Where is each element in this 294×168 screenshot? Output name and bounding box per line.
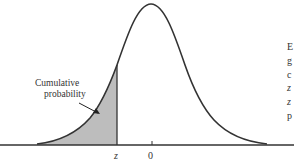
side-text-4: z — [287, 82, 291, 94]
zero-axis-label: 0 — [148, 150, 153, 161]
cumulative-label-line1: Cumulative — [35, 78, 79, 89]
side-text-2: g — [287, 55, 292, 67]
side-text-5: z — [287, 96, 291, 108]
side-text-1: E — [287, 41, 293, 53]
bell-curve — [37, 4, 267, 144]
normal-distribution-figure: Cumulative probability z 0 E g c z z p — [0, 0, 294, 168]
cumulative-label-line2: probability — [44, 89, 86, 100]
cumulative-shaded-area — [37, 65, 117, 145]
side-text-6: p — [287, 110, 292, 122]
side-text-3: c — [287, 69, 291, 81]
z-axis-label: z — [114, 150, 118, 161]
